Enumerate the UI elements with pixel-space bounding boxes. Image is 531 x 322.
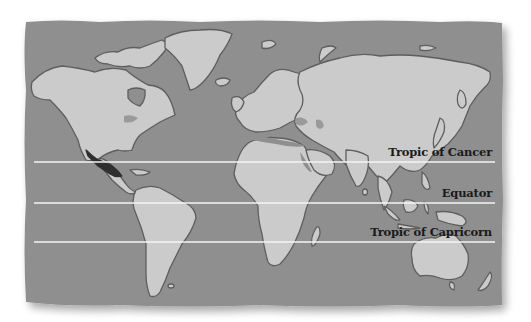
- sri-lanka: [363, 189, 368, 195]
- tropic-of-cancer-label: Tropic of Cancer: [388, 145, 492, 159]
- falkland-islands: [168, 284, 174, 288]
- world-map: Tropic of Cancer Equator Tropic of Capri…: [0, 0, 531, 322]
- tropic-of-capricorn-label: Tropic of Capricorn: [370, 225, 492, 239]
- australia: [411, 234, 468, 279]
- equator-label: Equator: [442, 186, 492, 200]
- world-map-graphic: [0, 0, 531, 322]
